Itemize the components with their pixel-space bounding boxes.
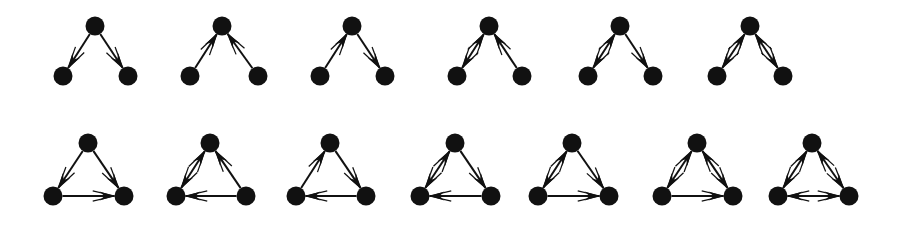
triad-edges bbox=[593, 34, 648, 68]
triad-edge-1-forward bbox=[335, 151, 360, 188]
triad-edge-2-forward bbox=[63, 191, 115, 201]
triad-edge-1-forward bbox=[577, 151, 603, 188]
triad-node-apex bbox=[688, 134, 707, 153]
triad-edge-1-forward bbox=[357, 34, 380, 68]
triad-node-left bbox=[769, 187, 788, 206]
triad-node-apex bbox=[446, 134, 465, 153]
triad-triad-10 bbox=[411, 134, 501, 206]
triad-edge-0-both bbox=[667, 151, 692, 188]
triad-nodes bbox=[411, 134, 501, 206]
triad-edge-2-reverse bbox=[186, 191, 237, 201]
triad-nodes bbox=[311, 17, 395, 86]
triad-edge-0-both bbox=[425, 151, 450, 188]
triad-edge-0-reverse bbox=[301, 151, 325, 188]
triad-nodes bbox=[653, 134, 743, 206]
triad-edge-1-reverse bbox=[494, 34, 517, 68]
triad-triad-2 bbox=[181, 17, 268, 86]
triad-node-apex bbox=[343, 17, 362, 36]
triad-edge-2-reverse bbox=[306, 191, 357, 201]
triad-edge-0-both bbox=[543, 151, 567, 188]
triad-edge-0-both bbox=[181, 151, 205, 188]
triad-node-left bbox=[311, 67, 330, 86]
triad-node-apex bbox=[86, 17, 105, 36]
triad-diagram-canvas bbox=[0, 0, 908, 227]
triad-node-apex bbox=[803, 134, 822, 153]
triad-edges bbox=[722, 34, 778, 68]
triad-edges bbox=[425, 151, 485, 201]
triad-node-right bbox=[357, 187, 376, 206]
triad-edge-1-forward bbox=[625, 34, 648, 68]
triad-edge-0-reverse bbox=[195, 34, 217, 68]
triad-edge-0-reverse bbox=[325, 34, 347, 68]
triad-node-right bbox=[774, 67, 793, 86]
triad-node-left bbox=[448, 67, 467, 86]
triad-edge-1-both bbox=[817, 151, 843, 188]
triad-edge-2-forward bbox=[548, 191, 600, 201]
triad-nodes bbox=[287, 134, 376, 206]
triad-nodes bbox=[167, 134, 256, 206]
triad-node-apex bbox=[563, 134, 582, 153]
triad-edges bbox=[301, 151, 361, 201]
triad-edges bbox=[462, 34, 517, 68]
triad-edge-1-reverse bbox=[215, 151, 240, 188]
triad-node-right bbox=[840, 187, 859, 206]
triad-edge-1-reverse bbox=[228, 34, 253, 69]
triad-edge-0-forward bbox=[58, 151, 83, 188]
triad-node-right bbox=[513, 67, 532, 86]
triad-node-apex bbox=[741, 17, 760, 36]
triad-node-apex bbox=[201, 134, 220, 153]
triad-triad-12 bbox=[653, 134, 743, 206]
triad-edge-2-forward bbox=[672, 191, 724, 201]
triad-node-apex bbox=[79, 134, 98, 153]
triad-edge-2-both bbox=[788, 191, 840, 201]
triad-edges bbox=[667, 151, 727, 201]
triad-nodes bbox=[54, 17, 138, 86]
triad-node-left bbox=[181, 67, 200, 86]
triad-triad-8 bbox=[167, 134, 256, 206]
triad-triad-11 bbox=[529, 134, 619, 206]
triad-node-apex bbox=[480, 17, 499, 36]
triad-node-apex bbox=[321, 134, 340, 153]
triad-node-left bbox=[54, 67, 73, 86]
triad-node-apex bbox=[611, 17, 630, 36]
triad-node-left bbox=[529, 187, 548, 206]
triad-edge-0-both bbox=[462, 34, 484, 68]
triad-edges bbox=[58, 151, 118, 201]
triad-node-right bbox=[115, 187, 134, 206]
triad-edges bbox=[325, 34, 380, 68]
triad-census-figure bbox=[0, 0, 908, 227]
triad-node-right bbox=[237, 187, 256, 206]
triad-node-left bbox=[44, 187, 63, 206]
triad-nodes bbox=[529, 134, 619, 206]
triad-triad-6 bbox=[708, 17, 793, 86]
triad-node-right bbox=[482, 187, 501, 206]
triad-triad-1 bbox=[54, 17, 138, 86]
triad-edge-2-reverse bbox=[430, 191, 482, 201]
triad-node-left bbox=[579, 67, 598, 86]
triad-edge-1-both bbox=[702, 151, 727, 188]
triad-edge-1-forward bbox=[100, 34, 123, 68]
triad-triad-4 bbox=[448, 17, 532, 86]
triad-edge-1-forward bbox=[460, 151, 485, 188]
triad-node-right bbox=[119, 67, 138, 86]
triad-edges bbox=[68, 34, 123, 68]
triad-triad-7 bbox=[44, 134, 134, 206]
triad-nodes bbox=[181, 17, 268, 86]
triad-node-left bbox=[411, 187, 430, 206]
triad-nodes bbox=[579, 17, 663, 86]
triad-node-right bbox=[600, 187, 619, 206]
triad-triad-13 bbox=[769, 134, 859, 206]
triad-node-right bbox=[249, 67, 268, 86]
triad-nodes bbox=[448, 17, 532, 86]
triad-node-left bbox=[708, 67, 727, 86]
triad-node-apex bbox=[213, 17, 232, 36]
triad-node-right bbox=[724, 187, 743, 206]
triad-triad-3 bbox=[311, 17, 395, 86]
triad-edges bbox=[195, 34, 252, 69]
triad-node-left bbox=[653, 187, 672, 206]
triad-edge-1-forward bbox=[93, 151, 118, 188]
triad-node-right bbox=[376, 67, 395, 86]
triad-edge-0-both bbox=[783, 151, 807, 188]
triad-edges bbox=[181, 151, 241, 201]
triad-edge-0-forward bbox=[68, 34, 90, 68]
